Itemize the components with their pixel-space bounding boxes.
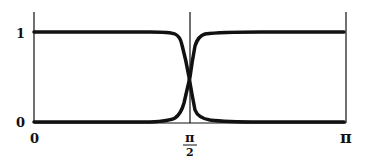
series-ascending [34, 32, 344, 122]
y-tick-0: 0 [16, 115, 25, 130]
x-tick-pi2-num: π [185, 130, 195, 145]
y-tick-1: 1 [16, 26, 25, 41]
x-tick-pi2-den: 2 [186, 146, 194, 159]
x-tick-0: 0 [30, 131, 39, 146]
x-tick-pi: π [340, 128, 352, 147]
chart: 1 0 0 π 2 π [0, 0, 368, 166]
